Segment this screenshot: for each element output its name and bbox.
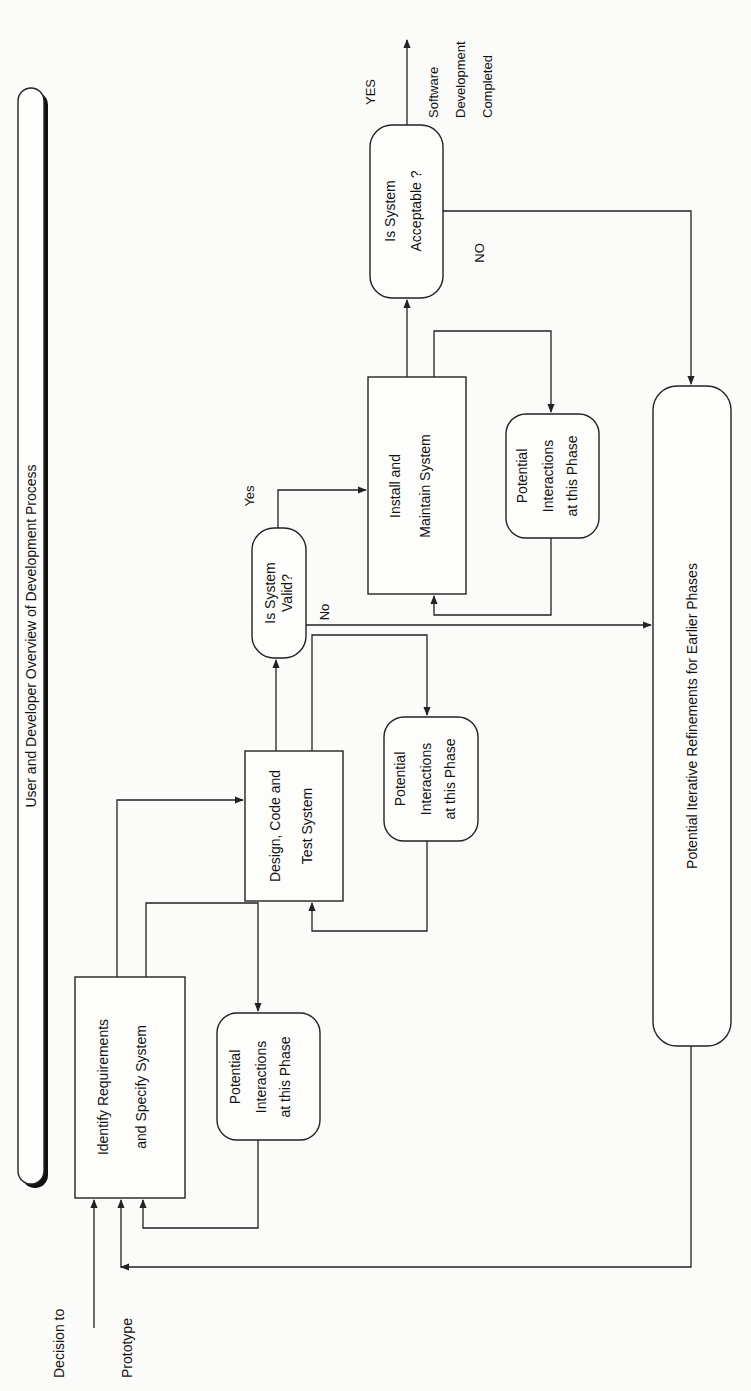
arrow-refinements-return — [121, 1046, 691, 1267]
accept-yes-label: YES — [363, 79, 378, 105]
valid-line2: Valid? — [279, 574, 295, 612]
arrow-valid-yes — [278, 490, 366, 528]
acceptable-line1: Is System — [382, 180, 398, 241]
install-line2: Maintain System — [417, 434, 433, 537]
interactions-1-line2: Interactions — [253, 1041, 269, 1113]
valid-no-label: No — [317, 604, 332, 621]
entry-label-decision: Decision to — [51, 1309, 67, 1378]
acceptable-line2: Acceptable ? — [408, 170, 424, 251]
interactions-1-line1: Potential — [227, 1050, 243, 1104]
interactions-node-identify: Potential Interactions at this Phase — [217, 1013, 320, 1140]
interactions-1-line3: at this Phase — [277, 1036, 293, 1117]
outcome-line2: Development — [453, 41, 468, 118]
interactions-3-line1: Potential — [514, 449, 530, 503]
interactions-node-install: Potential Interactions at this Phase — [506, 414, 599, 538]
valid-line1: Is System — [262, 562, 278, 623]
design-line2: Test System — [299, 788, 315, 864]
process-diagram: User and Developer Overview of Developme… — [0, 0, 751, 1391]
interactions-2-line3: at this Phase — [442, 738, 458, 819]
interactions-3-line3: at this Phase — [564, 435, 580, 516]
arrow-identify-to-design — [117, 800, 243, 977]
install-line1: Install and — [387, 454, 403, 518]
arrow-acceptable-no — [443, 211, 691, 384]
valid-yes-label: Yes — [242, 485, 257, 507]
design-code-test-node: Design, Code and Test System — [245, 751, 343, 901]
interactions-3-line2: Interactions — [540, 440, 556, 512]
install-maintain-node: Install and Maintain System — [368, 377, 466, 594]
identify-line1: Identify Requirements — [95, 1019, 111, 1155]
entry-label-prototype: Prototype — [119, 1318, 135, 1378]
interactions-node-design: Potential Interactions at this Phase — [384, 717, 478, 841]
title-banner: User and Developer Overview of Developme… — [18, 88, 48, 1188]
identify-requirements-node: Identify Requirements and Specify System — [75, 977, 185, 1198]
outcome-line3: Completed — [480, 55, 495, 118]
refinements-label: Potential Iterative Refinements for Earl… — [684, 563, 700, 869]
outcome-line1: Software — [426, 67, 441, 118]
design-line1: Design, Code and — [267, 770, 283, 882]
refinements-node: Potential Iterative Refinements for Earl… — [653, 386, 731, 1046]
is-system-valid-decision: Is System Valid? — [252, 528, 306, 658]
identify-line2: and Specify System — [133, 1025, 149, 1149]
is-system-acceptable-decision: Is System Acceptable ? — [370, 125, 443, 298]
title-text: User and Developer Overview of Developme… — [23, 464, 39, 807]
interactions-2-line2: Interactions — [418, 743, 434, 815]
accept-no-label: NO — [472, 243, 487, 263]
interactions-2-line1: Potential — [392, 752, 408, 806]
